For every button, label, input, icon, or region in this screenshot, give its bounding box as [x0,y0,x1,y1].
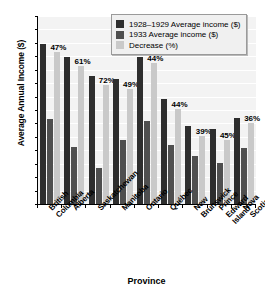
bar-2 [96,168,102,204]
legend-item: Decrease (%) [116,41,241,50]
bar-group: 61% [62,16,86,204]
x-axis-title: Province [37,276,256,286]
legend-swatch [116,20,124,28]
bar-3: 61% [78,66,84,204]
bar-3: 72% [103,85,109,205]
legend-swatch [116,41,124,49]
legend-label: 1933 Average income ($) [129,30,218,39]
bar-3: 47% [54,52,60,204]
bar-1 [89,76,95,204]
bar-2 [168,145,174,204]
bar-3: 44% [151,63,157,204]
bar-1 [137,57,143,204]
legend-item: 1933 Average income ($) [116,30,241,39]
bar-value-label: 36% [244,115,260,123]
bar-group: 47% [38,16,62,204]
legend-item: 1928–1929 Average income ($) [116,20,241,29]
bar-2 [192,156,198,204]
bar-1 [40,44,46,204]
x-axis-labels: British ColumbiaAlbertaSaskatchewanManit… [37,206,256,268]
y-axis-title: Average Annual Income ($) [16,8,26,178]
legend-label: Decrease (%) [129,41,178,50]
bar-group: 72% [86,16,110,204]
bar-chart: Average Annual Income ($) 05010015020025… [0,0,265,296]
legend-label: 1928–1929 Average income ($) [129,20,241,29]
bar-3: 44% [175,109,181,204]
bar-3: 36% [248,123,254,204]
bar-2 [47,119,53,204]
chart-legend: 1928–1929 Average income ($)1933 Average… [111,14,247,55]
legend-swatch [116,31,124,39]
